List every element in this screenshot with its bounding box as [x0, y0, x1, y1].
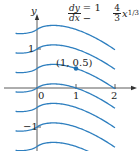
point-label: (1, 0.5): [56, 58, 92, 68]
y-tick-neg1: −1: [23, 122, 38, 132]
x-tick-0: 0: [38, 91, 44, 101]
dx: dx: [69, 14, 80, 23]
coef-numerator: 4: [113, 4, 121, 14]
y-axis-label: y: [31, 6, 37, 16]
dy: dy: [68, 4, 81, 14]
x-axis-arrow-icon: [131, 86, 137, 90]
x-tick-2: 2: [111, 91, 117, 101]
derivative-fraction: dy dx: [68, 4, 81, 23]
y-tick-1: 1: [28, 44, 34, 54]
equals-one-minus: = 1 −: [83, 2, 111, 24]
coef-denominator: 3: [114, 14, 120, 23]
x-tick-1: 1: [73, 91, 79, 101]
solution-curve: [16, 142, 115, 151]
coefficient-fraction: 4 3: [113, 4, 121, 23]
exponent: 1/3: [128, 9, 139, 17]
differential-equation: dy dx = 1 − 4 3 x1/3: [68, 2, 139, 24]
